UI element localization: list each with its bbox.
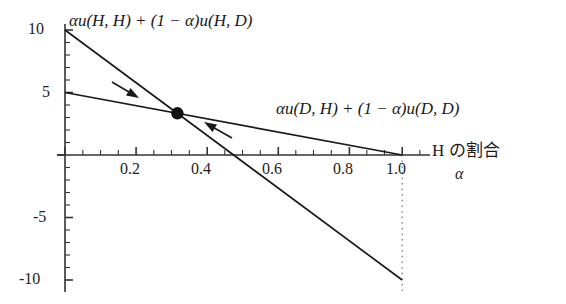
- series-label-dove: αu(D, H) + (1 − α)u(D, D): [276, 100, 459, 117]
- y-tick-label-10: 10: [28, 21, 44, 37]
- y-tick-label-minus-5: -5: [33, 209, 46, 225]
- y-tick-label-minus-10: -10: [19, 271, 40, 287]
- y-tick-label-5: 5: [42, 84, 50, 100]
- axes-group: [57, 24, 430, 292]
- x-axis-title: H の割合: [432, 142, 500, 159]
- payoff-line-chart-figure: 10 5 -5 -10 0.2 0.4 0.6 0.8 1.0 αu(H, H)…: [0, 0, 566, 304]
- intersection-point-marker: [171, 107, 183, 119]
- x-tick-label-0-6: 0.6: [262, 161, 282, 177]
- x-tick-label-0-4: 0.4: [191, 161, 211, 177]
- x-tick-label-0-2: 0.2: [120, 161, 140, 177]
- arrow-right-down-icon: [112, 82, 139, 98]
- x-tick-label-1-0: 1.0: [386, 161, 406, 177]
- x-tick-label-0-8: 0.8: [333, 161, 353, 177]
- x-axis-title-variable: α: [455, 166, 463, 182]
- x-axis-major-ticks: [65, 147, 402, 155]
- series-label-hawk: αu(H, H) + (1 − α)u(H, D): [69, 12, 252, 29]
